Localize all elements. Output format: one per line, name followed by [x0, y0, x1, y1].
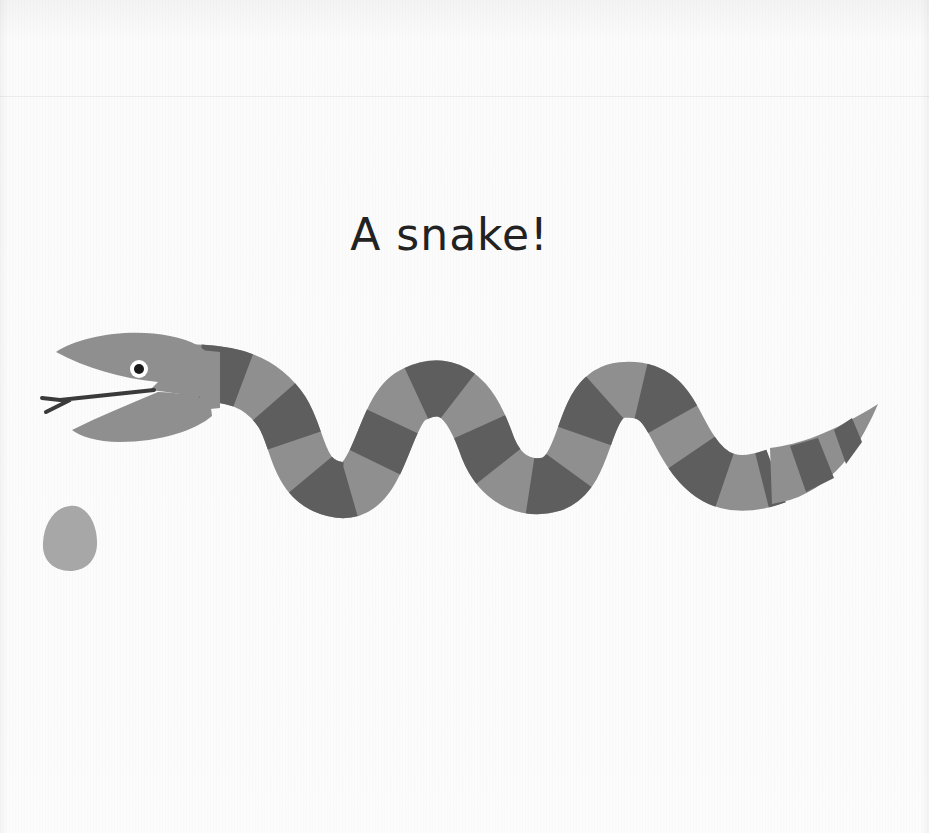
egg-icon — [43, 506, 97, 571]
eye-icon — [130, 360, 148, 378]
snake-illustration — [0, 0, 929, 833]
book-page: A snake! — [0, 0, 929, 833]
snake-head — [42, 333, 220, 442]
snake-body — [180, 372, 878, 504]
